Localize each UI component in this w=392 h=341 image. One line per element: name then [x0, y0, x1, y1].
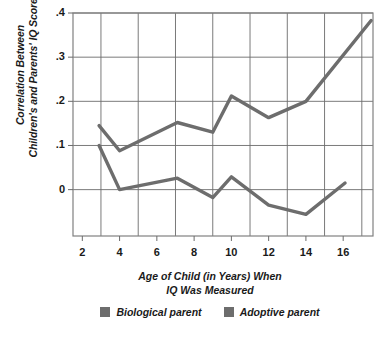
x-tick-label: 12	[257, 246, 281, 258]
legend-swatch-biological	[100, 307, 110, 317]
chart-legend: Biological parent Adoptive parent	[60, 306, 360, 318]
x-tick-label: 6	[145, 246, 169, 258]
legend-label-biological: Biological parent	[116, 306, 201, 318]
x-tick-label: 4	[108, 246, 132, 258]
x-tick-label: 2	[70, 246, 94, 258]
series-line-1	[99, 145, 345, 214]
legend-label-adoptive: Adoptive parent	[240, 306, 320, 318]
x-axis-title-line1: Age of Child (in Years) When	[138, 270, 282, 282]
x-tick-label: 16	[331, 246, 355, 258]
series-line-0	[99, 21, 371, 151]
x-axis-title: Age of Child (in Years) When IQ Was Meas…	[60, 270, 360, 297]
x-tick-label: 14	[294, 246, 318, 258]
x-axis-title-line2: IQ Was Measured	[166, 284, 253, 296]
y-tick-label: .2	[43, 94, 65, 106]
y-tick-label: .4	[43, 6, 65, 18]
y-tick-label: .1	[43, 138, 65, 150]
x-tick-label: 8	[182, 246, 206, 258]
chart-figure: Correlation Between Children's and Paren…	[0, 0, 392, 341]
x-tick-label: 10	[219, 246, 243, 258]
legend-swatch-adoptive	[224, 307, 234, 317]
legend-item-adoptive: Adoptive parent	[224, 306, 320, 318]
y-tick-label: .3	[43, 50, 65, 62]
legend-item-biological: Biological parent	[100, 306, 201, 318]
y-tick-label: 0	[43, 183, 65, 195]
